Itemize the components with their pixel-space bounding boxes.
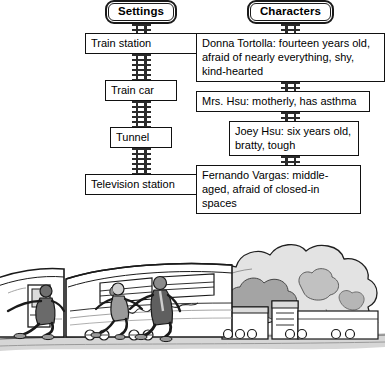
characters-header: Characters: [196, 0, 385, 24]
settings-node-row: Tunnel: [85, 127, 197, 148]
characters-column: Characters Donna Tortolla: fourteen year…: [196, 0, 385, 214]
rail-ties: [281, 82, 300, 91]
rail-connector-settings-2: [134, 101, 149, 127]
rail-ties: [281, 24, 300, 33]
rail-connector-settings-3: [134, 148, 149, 174]
rail-ties: [132, 148, 151, 174]
settings-node-row: Train car: [85, 80, 197, 101]
settings-header-label: Settings: [108, 3, 174, 21]
characters-node-row: Donna Tortolla: fourteen years old, afra…: [196, 33, 385, 82]
rail-ties: [132, 54, 151, 80]
character-node-fernando-vargas: Fernando Vargas: middle-aged, afraid of …: [196, 165, 361, 214]
rail-ties: [132, 24, 151, 33]
rail-connector-characters-1: [283, 82, 298, 91]
settings-header: Settings: [85, 0, 197, 24]
character-node-mrs-hsu: Mrs. Hsu: motherly, has asthma: [196, 91, 370, 112]
settings-node-television-station: Television station: [85, 174, 197, 195]
rail-ties: [281, 112, 300, 121]
rail-connector-characters-0: [283, 24, 298, 33]
settings-node-train-station: Train station: [85, 33, 197, 54]
character-node-joey-hsu: Joey Hsu: six years old, bratty, tough: [229, 121, 359, 156]
passenger-car: [66, 264, 232, 337]
settings-node-train-car: Train car: [105, 80, 177, 101]
characters-header-label: Characters: [250, 3, 331, 21]
characters-header-pill: Characters: [247, 0, 334, 24]
settings-header-pill: Settings: [105, 0, 177, 24]
characters-node-row: Mrs. Hsu: motherly, has asthma: [196, 91, 385, 112]
rail-connector-settings-1: [134, 54, 149, 80]
settings-node-row: Television station: [85, 174, 197, 195]
settings-node-tunnel: Tunnel: [110, 127, 172, 148]
characters-node-row: Joey Hsu: six years old, bratty, tough: [196, 121, 385, 156]
rail-ties: [132, 101, 151, 127]
rail-connector-characters-3: [283, 156, 298, 165]
characters-node-row: Fernando Vargas: middle-aged, afraid of …: [196, 165, 385, 214]
train-illustration: [0, 215, 385, 365]
rail-connector-settings-0: [134, 24, 149, 33]
rail-connector-characters-2: [283, 112, 298, 121]
settings-column: Settings Train station Train car Tunnel …: [85, 0, 197, 195]
character-node-donna-tortolla: Donna Tortolla: fourteen years old, afra…: [196, 33, 385, 82]
story-elements-diagram: Settings Train station Train car Tunnel …: [0, 0, 385, 215]
rail-ties: [281, 156, 300, 165]
train-illustration-svg: [0, 215, 385, 365]
settings-node-row: Train station: [85, 33, 197, 54]
